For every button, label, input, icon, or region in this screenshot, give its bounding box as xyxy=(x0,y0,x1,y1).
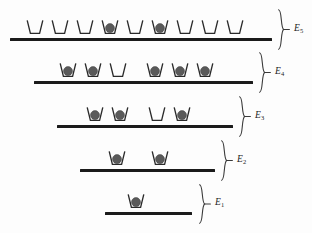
site-well-group xyxy=(0,105,312,122)
particle-icon xyxy=(106,24,115,33)
curly-brace-icon xyxy=(260,53,265,92)
site-well-group xyxy=(0,18,312,35)
occupied-site-well xyxy=(111,106,129,122)
empty-site-well xyxy=(51,19,69,35)
particle-icon xyxy=(178,111,187,120)
well-outline-icon xyxy=(52,21,68,34)
level-brace xyxy=(277,9,295,50)
occupied-site-well xyxy=(59,62,77,78)
well-outline-icon xyxy=(227,21,243,34)
well-outline-icon xyxy=(177,21,193,34)
occupied-site-well xyxy=(151,19,169,35)
energy-level-line xyxy=(10,38,272,41)
curly-brace-icon xyxy=(240,97,245,136)
empty-site-well xyxy=(26,19,44,35)
well-outline-icon xyxy=(202,21,218,34)
energy-level-label-subscript: 1 xyxy=(221,201,224,208)
energy-level-label: E2 xyxy=(237,155,246,165)
empty-site-well xyxy=(148,106,166,122)
empty-site-well xyxy=(176,19,194,35)
particle-icon xyxy=(64,67,73,76)
energy-level-label-subscript: 5 xyxy=(300,27,303,34)
occupied-site-well xyxy=(101,19,119,35)
particle-icon xyxy=(151,67,160,76)
energy-level-label: E1 xyxy=(215,198,224,208)
particle-icon xyxy=(132,198,141,207)
site-well-group xyxy=(0,149,312,166)
particle-icon xyxy=(113,155,122,164)
well-outline-icon xyxy=(127,21,143,34)
level-brace xyxy=(220,140,238,181)
well-outline-icon xyxy=(27,21,43,34)
level-brace xyxy=(258,52,276,93)
empty-site-well xyxy=(226,19,244,35)
well-outline-icon xyxy=(77,21,93,34)
well-outline-icon xyxy=(149,108,165,121)
energy-level-label-base: E xyxy=(255,110,261,120)
curly-brace-icon xyxy=(222,141,227,180)
occupied-site-well xyxy=(171,62,189,78)
particle-icon xyxy=(91,111,100,120)
energy-level-label-subscript: 2 xyxy=(243,158,246,165)
energy-level-label: E3 xyxy=(255,111,264,121)
curly-brace-icon xyxy=(200,185,205,223)
energy-level-line xyxy=(105,212,192,215)
energy-level-label-base: E xyxy=(294,23,300,33)
energy-level-line xyxy=(34,81,253,84)
particle-icon xyxy=(89,67,98,76)
particle-icon xyxy=(176,67,185,76)
occupied-site-well xyxy=(146,62,164,78)
site-well-group xyxy=(0,192,312,209)
level-brace xyxy=(198,184,216,224)
occupied-site-well xyxy=(173,106,191,122)
particle-icon xyxy=(156,155,165,164)
particle-icon xyxy=(156,24,165,33)
empty-site-well xyxy=(109,62,127,78)
energy-level-label-subscript: 3 xyxy=(261,114,264,121)
energy-level-label: E5 xyxy=(294,24,303,34)
energy-level-label-base: E xyxy=(237,154,243,164)
empty-site-well xyxy=(126,19,144,35)
occupied-site-well xyxy=(196,62,214,78)
empty-site-well xyxy=(201,19,219,35)
occupied-site-well xyxy=(151,150,169,166)
energy-level-line xyxy=(80,169,215,172)
level-brace xyxy=(238,96,256,137)
particle-icon xyxy=(116,111,125,120)
energy-level-label-subscript: 4 xyxy=(281,70,284,77)
occupied-site-well xyxy=(108,150,126,166)
curly-brace-icon xyxy=(279,10,284,49)
particle-icon xyxy=(201,67,210,76)
occupied-site-well xyxy=(127,193,145,209)
energy-level-diagram: E5E4E3E2E1 xyxy=(0,0,312,233)
empty-site-well xyxy=(76,19,94,35)
energy-level-label-base: E xyxy=(275,66,281,76)
energy-level-line xyxy=(57,125,233,128)
energy-level-label-base: E xyxy=(215,197,221,207)
occupied-site-well xyxy=(86,106,104,122)
well-outline-icon xyxy=(110,64,126,77)
occupied-site-well xyxy=(84,62,102,78)
energy-level-label: E4 xyxy=(275,67,284,77)
